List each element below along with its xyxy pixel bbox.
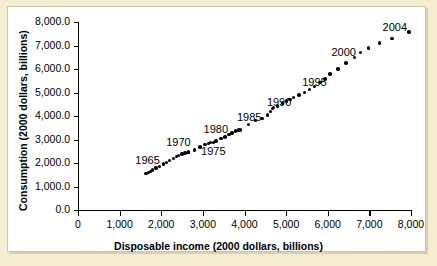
y-tick <box>74 140 78 141</box>
y-tick <box>74 116 78 117</box>
year-annotation: 1990 <box>267 96 291 108</box>
y-tick <box>74 187 78 188</box>
y-tick <box>74 69 78 70</box>
year-annotation: 1985 <box>237 111 261 123</box>
data-point <box>344 61 347 64</box>
data-point <box>336 67 339 70</box>
x-tick <box>78 211 79 216</box>
y-tick <box>74 163 78 164</box>
year-annotation: 2000 <box>331 46 355 58</box>
data-point <box>266 113 269 116</box>
data-point <box>187 150 190 153</box>
data-point <box>223 135 226 138</box>
data-point <box>214 139 217 142</box>
figure-background: 0.01,000.02,000.03,000.04,000.05,000.06,… <box>0 0 437 266</box>
year-annotation: 2004 <box>383 21 407 33</box>
y-axis-line <box>78 22 79 211</box>
data-point <box>328 72 331 75</box>
data-point <box>367 46 370 49</box>
x-tick-label: 8,000 <box>386 218 436 230</box>
x-tick <box>161 211 162 216</box>
data-point <box>292 96 295 99</box>
y-tick <box>74 93 78 94</box>
data-point <box>168 159 171 162</box>
data-point <box>297 93 300 96</box>
x-tick <box>245 211 246 216</box>
x-tick <box>369 211 370 216</box>
y-tick <box>74 22 78 23</box>
data-point <box>407 30 410 33</box>
data-point <box>378 41 381 44</box>
x-axis-title: Disposable income (2000 dollars, billion… <box>0 240 437 252</box>
y-tick <box>74 46 78 47</box>
x-tick <box>120 211 121 216</box>
x-tick <box>286 211 287 216</box>
x-tick <box>328 211 329 216</box>
data-point <box>154 166 157 169</box>
y-tick-label: 8,000.0 <box>12 15 70 27</box>
data-point <box>238 128 241 131</box>
year-annotation: 1965 <box>135 154 159 166</box>
data-point <box>390 37 393 40</box>
year-annotation: 1970 <box>166 136 190 148</box>
x-tick <box>203 211 204 216</box>
scatter-plot: 0.01,000.02,000.03,000.04,000.05,000.06,… <box>0 0 437 266</box>
x-tick <box>411 211 412 216</box>
y-axis-title: Consumption (2000 dollars, billions) <box>17 30 29 211</box>
data-point <box>359 51 362 54</box>
data-point <box>308 88 311 91</box>
year-annotation: 1980 <box>204 123 228 135</box>
year-annotation: 1995 <box>302 76 326 88</box>
data-point <box>269 110 272 113</box>
data-point <box>193 148 196 151</box>
data-point <box>303 91 306 94</box>
year-annotation: 1975 <box>201 145 225 157</box>
